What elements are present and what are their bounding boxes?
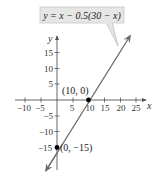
point-y-intercept-label: (0, −15) [60, 142, 92, 154]
line-chart: y = x − 0.5(30 − x) −10 −5 5 10 15 20 25… [0, 0, 158, 182]
y-tick-label: 10 [44, 64, 54, 74]
y-tick-label: −5 [43, 111, 53, 121]
point-x-intercept [86, 98, 91, 103]
equation-callout: y = x − 0.5(30 − x) [40, 7, 124, 46]
x-tick-label: 20 [117, 103, 127, 113]
point-x-intercept-label: (10, 0) [62, 85, 89, 97]
y-tick-label: −10 [39, 127, 54, 137]
x-tick-label: 25 [132, 103, 142, 113]
x-axis-label: x [146, 100, 152, 111]
y-axis-label: y [47, 33, 53, 44]
x-tick-label: −10 [17, 103, 32, 113]
y-tick-label: 15 [44, 48, 54, 58]
point-y-intercept [55, 145, 60, 150]
y-tick-label: 5 [49, 79, 54, 89]
x-tick-label: 5 [70, 103, 75, 113]
y-tick-label: −15 [38, 143, 53, 153]
x-tick-label: 15 [101, 103, 111, 113]
equation-label: y = x − 0.5(30 − x) [42, 10, 121, 22]
